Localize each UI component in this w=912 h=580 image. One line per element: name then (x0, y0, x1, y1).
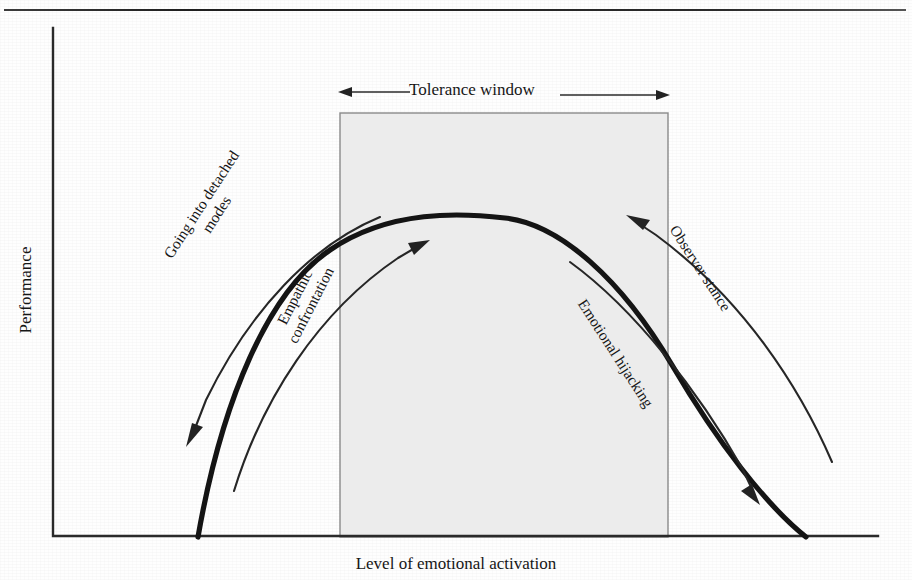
figure-page: Tolerance window Going into detached mod… (0, 0, 912, 580)
tolerance-window-band (340, 113, 668, 537)
x-axis-title: Level of emotional activation (0, 554, 912, 574)
tolerance-window-label: Tolerance window (409, 80, 535, 100)
y-axis-title-text: Performance (16, 247, 36, 334)
y-axis-title: Performance (12, 0, 40, 580)
